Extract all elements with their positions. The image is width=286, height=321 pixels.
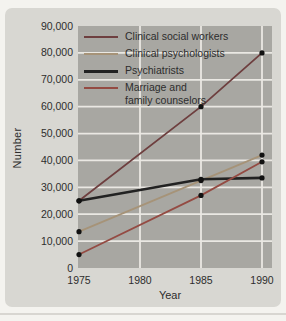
- y-tick-label: 60,000: [16, 100, 73, 112]
- y-tick-label: 70,000: [16, 73, 73, 85]
- legend-swatch: [84, 53, 118, 55]
- legend-item-clinical-psychologists: Clinical psychologists: [84, 47, 228, 60]
- legend-label: Clinical psychologists: [125, 47, 225, 60]
- legend-swatch: [84, 87, 118, 89]
- page-edge-line: [0, 313, 286, 315]
- figure: Number 010,00020,00030,00040,00050,00060…: [0, 0, 286, 321]
- legend: Clinical social workersClinical psycholo…: [84, 30, 228, 111]
- y-tick-label: 90,000: [16, 20, 73, 32]
- y-tick-label: 30,000: [16, 181, 73, 193]
- data-point-clinical-psychologists: [76, 229, 81, 234]
- x-tick-label: 1975: [59, 274, 99, 286]
- x-tick-label: 1980: [120, 274, 160, 286]
- y-tick-label: 20,000: [16, 208, 73, 220]
- x-axis-title: Year: [70, 289, 270, 301]
- x-tick-label: 1990: [242, 274, 282, 286]
- y-tick-label: 80,000: [16, 46, 73, 58]
- legend-label: Psychiatrists: [125, 64, 184, 77]
- legend-item-clinical-social-workers: Clinical social workers: [84, 30, 228, 43]
- y-tick-label: 40,000: [16, 154, 73, 166]
- y-tick-label: 10,000: [16, 235, 73, 247]
- y-tick-label: 0: [16, 262, 73, 274]
- data-point-marriage-family-counselors: [198, 193, 203, 198]
- data-point-clinical-psychologists: [259, 152, 264, 157]
- data-point-marriage-family-counselors: [76, 252, 81, 257]
- legend-swatch: [84, 70, 118, 73]
- legend-label: Marriage and family counselors: [125, 81, 206, 107]
- data-point-psychiatrists: [76, 198, 81, 203]
- data-point-psychiatrists: [259, 175, 264, 180]
- legend-swatch: [84, 36, 118, 38]
- data-point-clinical-social-workers: [259, 50, 264, 55]
- legend-label: Clinical social workers: [125, 30, 228, 43]
- data-point-psychiatrists: [198, 177, 203, 182]
- y-tick-label: 50,000: [16, 127, 73, 139]
- data-point-marriage-family-counselors: [259, 159, 264, 164]
- legend-item-marriage-family-counselors: Marriage and family counselors: [84, 81, 228, 107]
- legend-item-psychiatrists: Psychiatrists: [84, 64, 228, 77]
- x-tick-label: 1985: [181, 274, 221, 286]
